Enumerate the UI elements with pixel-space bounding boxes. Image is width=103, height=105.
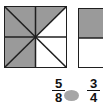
fraction-three-fourths: 3 4	[85, 77, 102, 104]
numerator: 3	[85, 77, 102, 90]
shaded-quarter	[79, 9, 103, 38]
unshaded-quarter	[79, 38, 103, 67]
eighths-diagram	[4, 6, 67, 68]
numerator: 5	[50, 77, 67, 90]
fraction-five-eighths: 5 8	[50, 77, 67, 104]
fourths-diagram	[78, 8, 103, 68]
comparison-answer-oval[interactable]	[64, 90, 79, 101]
fourths-diagram-svg	[79, 9, 103, 67]
denominator: 4	[85, 91, 102, 104]
fraction-comparison-worksheet: 5 8 3 4	[0, 0, 103, 105]
eighths-diagram-svg	[5, 7, 66, 67]
